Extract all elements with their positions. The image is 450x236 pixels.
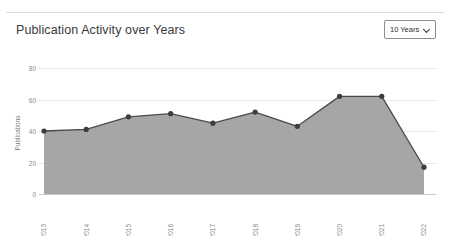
x-axis-tick-label: 2022 (420, 224, 427, 236)
y-axis-tick-label: 40 (29, 128, 37, 135)
x-axis-tick-label: 2014 (83, 224, 90, 236)
y-axis-tick-label: 60 (29, 97, 37, 104)
x-axis-tick-label: 2015 (125, 224, 132, 236)
series-data-point[interactable] (421, 165, 426, 170)
chart-series-publications (41, 94, 426, 194)
series-data-point[interactable] (253, 110, 258, 115)
series-data-point[interactable] (126, 114, 131, 119)
y-axis-tick-label: 20 (29, 160, 37, 167)
series-data-point[interactable] (41, 128, 46, 133)
series-data-point[interactable] (84, 127, 89, 132)
series-data-point[interactable] (295, 124, 300, 129)
publication-activity-card: Publication Activity over Years 10 Years… (0, 0, 450, 236)
series-data-point[interactable] (337, 94, 342, 99)
x-axis-tick-label: 2020 (336, 224, 343, 236)
y-axis-tick-label: 80 (29, 65, 37, 72)
chart-x-axis: 2013201420152016201720182019202020212022 (40, 224, 427, 236)
chart-y-axis: 020406080 (29, 65, 37, 198)
y-axis-title: Publications (14, 115, 21, 151)
x-axis-tick-label: 2018 (252, 224, 259, 236)
series-data-point[interactable] (168, 111, 173, 116)
chart-y-axis-label: Publications (14, 115, 21, 151)
x-axis-tick-label: 2021 (378, 224, 385, 236)
x-axis-tick-label: 2016 (167, 224, 174, 236)
series-area-fill (44, 96, 424, 194)
chart-plot-area: 020406080 201320142015201620172018201920… (0, 0, 450, 236)
series-data-point[interactable] (210, 121, 215, 126)
x-axis-tick-label: 2019 (294, 224, 301, 236)
y-axis-tick-label: 0 (32, 191, 36, 198)
publication-activity-chart: 020406080 201320142015201620172018201920… (0, 0, 450, 236)
x-axis-tick-label: 2017 (209, 224, 216, 236)
x-axis-tick-label: 2013 (40, 224, 47, 236)
series-data-point[interactable] (379, 94, 384, 99)
